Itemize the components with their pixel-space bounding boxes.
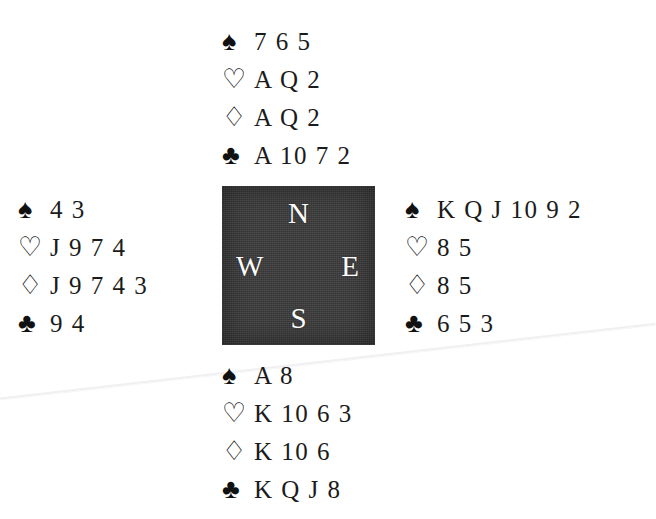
hand-west-diamonds: J 9 7 4 3 [50,267,148,305]
heart-icon: ♡ [18,228,50,266]
hand-west-clubs-row: ♣ 9 4 [18,304,148,342]
hand-north-diamonds: A Q 2 [254,99,321,137]
hand-west-hearts-row: ♡ J 9 7 4 [18,228,148,266]
heart-icon: ♡ [222,60,254,98]
hand-east-clubs: 6 5 3 [437,305,495,343]
hand-west: ♠ 4 3 ♡ J 9 7 4 ♢ J 9 7 4 3 ♣ 9 4 [18,190,148,342]
club-icon: ♣ [222,136,254,174]
hand-south-spades: A 8 [254,357,294,395]
club-icon: ♣ [18,304,50,342]
hand-west-diamonds-row: ♢ J 9 7 4 3 [18,266,148,304]
club-icon: ♣ [222,470,254,508]
hand-north-spades: 7 6 5 [254,23,312,61]
compass-label-north: N [222,199,375,228]
hand-south-diamonds-row: ♢ K 10 6 [222,432,353,470]
compass-label-east: E [341,251,359,280]
spade-icon: ♠ [222,356,254,394]
spade-icon: ♠ [18,190,50,228]
hand-south-diamonds: K 10 6 [254,433,331,471]
club-icon: ♣ [405,304,437,342]
hand-south-hearts: K 10 6 3 [254,395,353,433]
diamond-icon: ♢ [222,432,254,470]
hand-north-clubs-row: ♣ A 10 7 2 [222,136,351,174]
hand-east-spades: K Q J 10 9 2 [437,191,582,229]
hand-east-hearts-row: ♡ 8 5 [405,228,582,266]
hand-south: ♠ A 8 ♡ K 10 6 3 ♢ K 10 6 ♣ K Q J 8 [222,356,353,508]
hand-east: ♠ K Q J 10 9 2 ♡ 8 5 ♢ 8 5 ♣ 6 5 3 [405,190,582,342]
hand-north-diamonds-row: ♢ A Q 2 [222,98,351,136]
hand-north: ♠ 7 6 5 ♡ A Q 2 ♢ A Q 2 ♣ A 10 7 2 [222,22,351,174]
spade-icon: ♠ [405,190,437,228]
hand-south-clubs-row: ♣ K Q J 8 [222,470,353,508]
diamond-icon: ♢ [222,98,254,136]
hand-east-spades-row: ♠ K Q J 10 9 2 [405,190,582,228]
hand-south-clubs: K Q J 8 [254,471,342,509]
hand-north-clubs: A 10 7 2 [254,137,351,175]
heart-icon: ♡ [222,394,254,432]
compass-label-west: W [236,251,263,280]
hand-east-hearts: 8 5 [437,229,473,267]
compass-box: N W E S [222,186,375,345]
diamond-icon: ♢ [18,266,50,304]
hand-east-diamonds: 8 5 [437,267,473,305]
hand-south-hearts-row: ♡ K 10 6 3 [222,394,353,432]
hand-west-spades-row: ♠ 4 3 [18,190,148,228]
hand-north-spades-row: ♠ 7 6 5 [222,22,351,60]
hand-west-hearts: J 9 7 4 [50,229,126,267]
hand-west-spades: 4 3 [50,191,86,229]
hand-east-clubs-row: ♣ 6 5 3 [405,304,582,342]
hand-north-hearts-row: ♡ A Q 2 [222,60,351,98]
hand-south-spades-row: ♠ A 8 [222,356,353,394]
hand-east-diamonds-row: ♢ 8 5 [405,266,582,304]
diamond-icon: ♢ [405,266,437,304]
compass-label-south: S [222,304,375,333]
spade-icon: ♠ [222,22,254,60]
heart-icon: ♡ [405,228,437,266]
hand-north-hearts: A Q 2 [254,61,321,99]
hand-west-clubs: 9 4 [50,305,86,343]
